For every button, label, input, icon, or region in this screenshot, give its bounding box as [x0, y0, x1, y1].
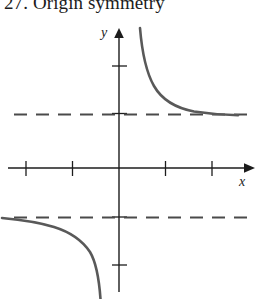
asymptotes [14, 115, 251, 218]
coordinate-plot [0, 0, 258, 299]
figure-container: 27. Origin symmetry [0, 0, 258, 299]
x-axis-label: x [239, 175, 245, 189]
y-axis-arrowhead [114, 28, 124, 38]
y-axis [114, 28, 124, 292]
y-axis-label: y [101, 26, 107, 40]
x-axis [8, 163, 255, 173]
curve-lower-left-branch [2, 218, 101, 299]
x-axis-arrowhead [244, 163, 255, 173]
curve-upper-right-branch [140, 28, 238, 115]
